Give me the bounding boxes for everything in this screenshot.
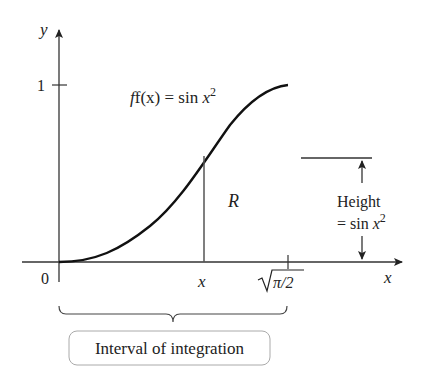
function-curve <box>59 85 288 262</box>
x-end-label: π/2 <box>258 270 304 291</box>
y-tick-1-label: 1 <box>37 77 45 94</box>
integral-diagram: y x 1 0 ff(x) = sin x2 R x π/2 Height = … <box>0 0 433 379</box>
region-label: R <box>227 191 239 211</box>
height-label-line2: = sin x2 <box>337 211 386 232</box>
interval-brace <box>59 306 287 322</box>
height-label-line1: Height <box>337 193 381 211</box>
function-label: ff(x) = sin x2 <box>130 85 216 107</box>
y-axis-label: y <box>38 20 48 39</box>
origin-label: 0 <box>41 270 49 287</box>
svg-text:π/2: π/2 <box>273 274 293 291</box>
x-axis-label: x <box>383 268 392 287</box>
interval-label: Interval of integration <box>95 339 245 358</box>
x-point-label: x <box>197 272 206 291</box>
